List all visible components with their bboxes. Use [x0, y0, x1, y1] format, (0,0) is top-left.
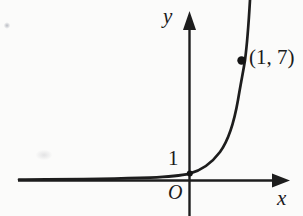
graph-figure: y x O 1 (1, 7) — [0, 0, 303, 216]
y-intercept-marker — [187, 170, 193, 176]
exponential-curve — [19, 0, 250, 180]
y-intercept-label: 1 — [168, 148, 179, 169]
point-coordinate-label: (1, 7) — [249, 47, 295, 68]
y-axis-label: y — [163, 6, 172, 27]
scan-artifact — [4, 22, 10, 29]
x-axis-label: x — [277, 188, 286, 209]
origin-label: O — [168, 182, 182, 202]
data-point-marker — [237, 56, 245, 64]
y-axis-arrowhead — [183, 11, 196, 30]
graph-canvas — [0, 0, 303, 216]
scan-artifact-secondary — [36, 150, 52, 160]
